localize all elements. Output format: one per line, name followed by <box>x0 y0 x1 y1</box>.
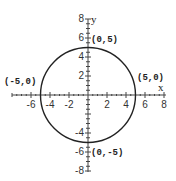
x-tick-label: -4 <box>46 99 55 110</box>
y-tick-label: 6 <box>78 32 84 43</box>
x-tick-label: -6 <box>27 99 36 110</box>
y-tick-label: -8 <box>75 165 84 176</box>
y-axis-label: y <box>91 13 97 25</box>
x-tick-label: 4 <box>123 99 129 110</box>
x-tick-label: -2 <box>65 99 74 110</box>
circle-graph: -6 -4 -2 2 4 6 8 8 6 4 2 -4 -6 -8 y x (0… <box>0 0 176 181</box>
point-label-right: (5,0) <box>137 73 164 83</box>
y-tick-label: 2 <box>78 70 84 81</box>
x-tick-label: 8 <box>161 99 167 110</box>
y-tick-label: 8 <box>78 13 84 24</box>
y-tick-label: -6 <box>75 146 84 157</box>
point-label-left: (-5,0) <box>4 77 36 87</box>
x-tick-label: 6 <box>142 99 148 110</box>
y-tick-label: -4 <box>75 127 84 138</box>
point-label-top: (0,5) <box>91 35 118 45</box>
point-label-bottom: (0,-5) <box>91 148 123 158</box>
x-tick-label: 2 <box>104 99 110 110</box>
y-tick-label: 4 <box>78 51 84 62</box>
